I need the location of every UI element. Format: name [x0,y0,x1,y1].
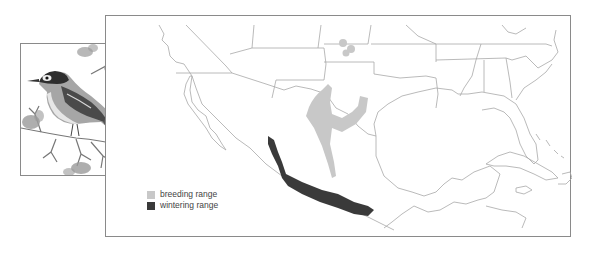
breeding-range-main [306,84,368,178]
wintering-range-areas [268,136,374,216]
wintering-swatch [147,202,155,210]
breeding-swatch [147,191,155,199]
wintering-range-main [268,136,374,216]
range-map-frame: breeding range wintering range [105,15,571,237]
map-legend: breeding range wintering range [147,189,218,211]
country-and-state-borders [159,25,572,230]
legend-item-wintering: wintering range [147,200,218,211]
breeding-range-patch [343,50,350,57]
legend-label: wintering range [160,200,218,211]
legend-label: breeding range [160,189,217,200]
breeding-range-patch [339,39,347,47]
legend-item-breeding: breeding range [147,189,218,200]
